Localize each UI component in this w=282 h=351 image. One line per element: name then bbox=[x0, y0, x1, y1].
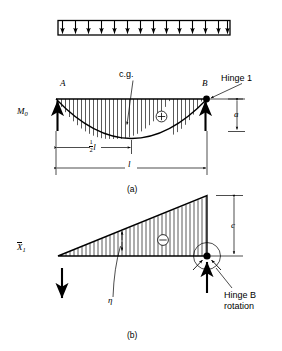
caption-a: (a) bbox=[127, 184, 137, 194]
diagram-b-graphics bbox=[58, 196, 243, 299]
dimension-c-label: c bbox=[231, 221, 235, 230]
parabola-curve bbox=[56, 99, 207, 139]
reaction-arrows-a bbox=[58, 101, 206, 131]
structural-diagram-figure: M0 A B c.g. Hinge 1 a 12l l (a) X1 η c H… bbox=[0, 0, 282, 351]
dimension-half-span-label: 12l bbox=[89, 139, 96, 153]
triangle-outline bbox=[58, 196, 207, 257]
dimension-c bbox=[216, 196, 243, 257]
caption-b: (b) bbox=[127, 330, 137, 340]
dimension-span-label: l bbox=[128, 160, 131, 169]
extension-lines-a bbox=[56, 131, 207, 175]
diagram-a-graphics bbox=[56, 81, 245, 176]
eta-label: η bbox=[108, 296, 112, 305]
cg-leader bbox=[127, 81, 133, 125]
cg-label: c.g. bbox=[119, 70, 134, 79]
m0-ordinate-label: M0 bbox=[17, 107, 28, 116]
x1-bar-ordinate-label: X1 bbox=[17, 243, 26, 252]
hatch-parabola bbox=[58, 99, 206, 139]
dimension-a-label: a bbox=[234, 110, 239, 119]
hinge-1-leader bbox=[211, 84, 242, 99]
hatch-mask bbox=[170, 101, 174, 135]
hinge-1-label: Hinge 1 bbox=[221, 74, 252, 83]
hinge-b-rotation-note: Hinge Brotation bbox=[224, 290, 256, 311]
plus-sign-symbol bbox=[156, 111, 167, 122]
load-band bbox=[58, 21, 230, 36]
hinge-b-node bbox=[203, 252, 210, 259]
node-label-a: A bbox=[60, 79, 66, 88]
hatch-triangle bbox=[62, 197, 206, 256]
node-label-b: B bbox=[202, 79, 208, 88]
minus-sign-symbol bbox=[158, 235, 169, 246]
hinge-1-node bbox=[203, 96, 210, 103]
hinge-b-leader bbox=[216, 268, 232, 288]
